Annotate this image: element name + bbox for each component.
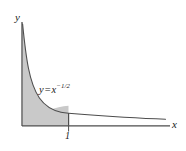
plot-canvas: [0, 0, 186, 151]
x-axis-label: x: [172, 119, 177, 130]
y-axis-label: y: [15, 12, 20, 23]
figure-container: y x 1 y=x−1/2: [0, 0, 186, 151]
curve-equation-annotation: y=x−1/2: [39, 83, 70, 95]
x-tick-label-one: 1: [65, 131, 70, 141]
equation-exponent: −1/2: [56, 82, 70, 89]
equation-lhs: y: [39, 84, 44, 95]
equation-equals-sign: =: [44, 84, 52, 95]
